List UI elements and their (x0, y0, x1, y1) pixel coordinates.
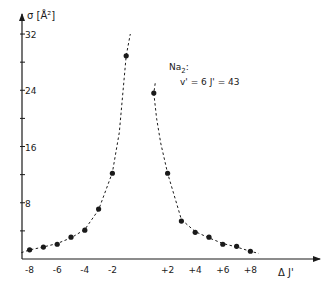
data-point (82, 228, 87, 233)
data-point (179, 218, 184, 223)
fit-curves (21, 34, 258, 253)
fit-curve (154, 83, 259, 253)
data-point (248, 249, 253, 254)
state-label: v' = 6 J' = 43 (180, 77, 240, 87)
x-tick-label: +4 (189, 265, 203, 275)
data-point (151, 90, 156, 95)
y-tick-label: 24 (25, 86, 37, 96)
x-tick-label: -8 (25, 265, 34, 275)
data-point (206, 235, 211, 240)
x-ticks: -8-6-4-2+2+4+6+8 (25, 265, 257, 275)
data-point (55, 242, 60, 247)
data-point (41, 244, 46, 249)
data-point (193, 230, 198, 235)
data-point (68, 235, 73, 240)
x-tick-label: -4 (80, 265, 89, 275)
x-tick-label: +8 (244, 265, 258, 275)
data-point (165, 171, 170, 176)
y-tick-label: 32 (25, 30, 36, 40)
x-tick-label: -2 (108, 265, 117, 275)
data-point (27, 247, 32, 252)
molecule-label: Na2: (169, 62, 189, 75)
data-point (234, 244, 239, 249)
cross-section-chart: 8162432 -8-6-4-2+2+4+6+8 σ [Å²] Δ J' Na2… (0, 0, 325, 286)
data-point (110, 171, 115, 176)
x-tick-label: +6 (216, 265, 230, 275)
y-axis-title: σ [Å²] (27, 9, 55, 21)
fit-curve (21, 34, 130, 253)
data-point (220, 242, 225, 247)
x-tick-label: +2 (161, 265, 174, 275)
data-point (124, 53, 129, 58)
y-tick-label: 16 (25, 143, 37, 153)
y-tick-label: 8 (25, 199, 31, 209)
data-point (96, 206, 101, 211)
x-tick-label: -6 (53, 265, 62, 275)
x-axis-title: Δ J' (278, 267, 294, 278)
